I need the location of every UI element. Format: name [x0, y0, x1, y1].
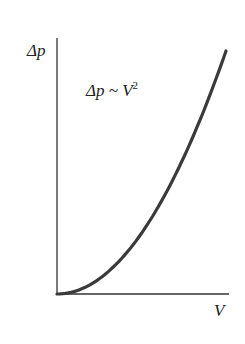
equation-annotation: Δp ~ V2 — [86, 80, 138, 99]
x-axis-label: V — [214, 302, 224, 319]
equation-base: Δp ~ V — [86, 81, 133, 100]
equation-exponent: 2 — [133, 79, 139, 91]
y-axis-label: Δp — [27, 42, 45, 59]
curve-dp-v-squared — [57, 51, 226, 294]
